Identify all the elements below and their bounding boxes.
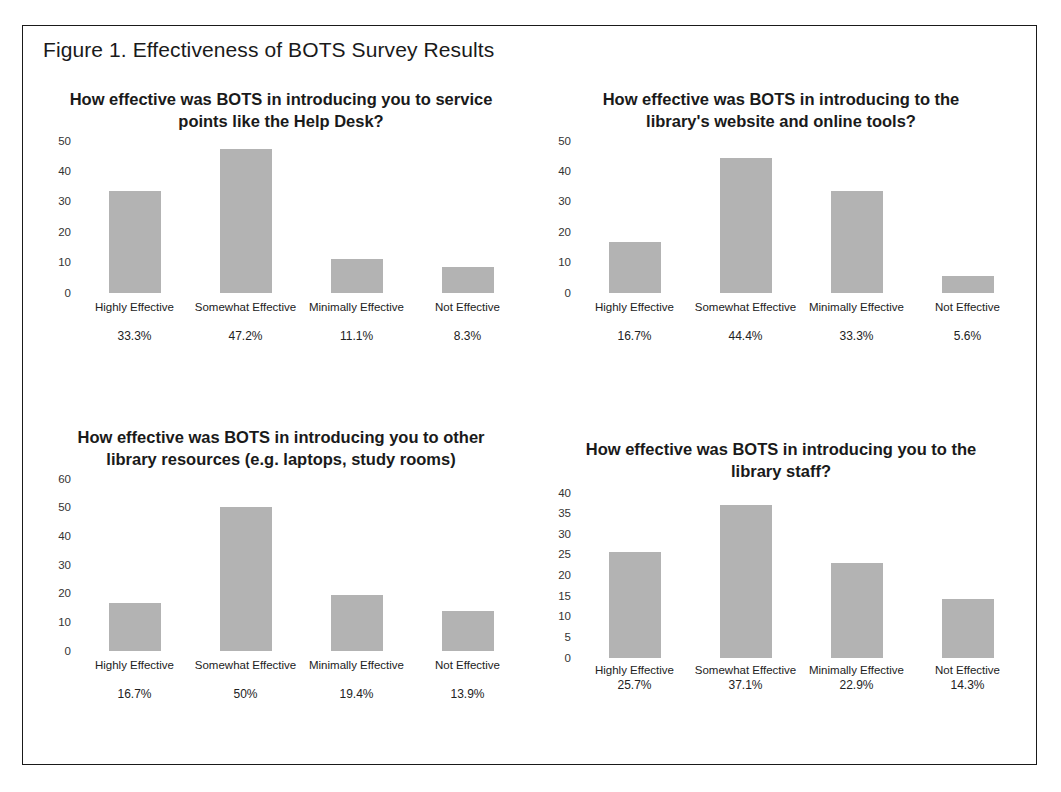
plot-area: 50403020100: [31, 141, 531, 293]
category-label: Somewhat Effective: [190, 301, 301, 313]
bar[interactable]: [609, 242, 661, 293]
bars-area: [579, 141, 1023, 293]
y-axis-tick-label: 40: [58, 530, 71, 542]
bar-slot: [579, 493, 690, 658]
chart-panel-other-resources: How effective was BOTS in introducing yo…: [31, 426, 531, 766]
plot-area: 6050403020100: [31, 479, 531, 651]
bar-slot: [912, 141, 1023, 293]
y-axis-tick-label: 0: [565, 652, 571, 664]
bar-slot: [190, 141, 301, 293]
y-axis-tick-label: 5: [565, 631, 571, 643]
bar[interactable]: [331, 595, 383, 651]
bar[interactable]: [942, 599, 994, 658]
bars-area: [579, 493, 1023, 658]
category-label: Highly Effective: [579, 664, 690, 676]
bar[interactable]: [609, 552, 661, 658]
bar-slot: [301, 479, 412, 651]
category-label: Highly Effective: [79, 301, 190, 313]
y-axis-tick-label: 20: [558, 569, 571, 581]
bar[interactable]: [720, 158, 772, 293]
y-axis-tick-label: 50: [58, 135, 71, 147]
y-axis-tick-label: 10: [558, 256, 571, 268]
y-axis-tick-label: 15: [558, 590, 571, 602]
chart-title: How effective was BOTS in introducing yo…: [31, 426, 531, 471]
y-axis: 50403020100: [531, 141, 575, 293]
category-label: Minimally Effective: [301, 659, 412, 671]
chart-title: How effective was BOTS in introducing yo…: [531, 438, 1031, 483]
percent-label: 14.3%: [912, 678, 1023, 692]
bar[interactable]: [831, 563, 883, 657]
y-axis-tick-label: 20: [58, 587, 71, 599]
y-axis-tick-label: 30: [58, 195, 71, 207]
category-label-row: Highly EffectiveSomewhat EffectiveMinima…: [79, 301, 523, 313]
chart-panel-library-staff: How effective was BOTS in introducing yo…: [531, 438, 1031, 768]
chart-panel-service-points: How effective was BOTS in introducing yo…: [31, 88, 531, 433]
y-axis-tick-label: 10: [558, 610, 571, 622]
chart-grid: How effective was BOTS in introducing yo…: [23, 78, 1036, 764]
percent-label: 5.6%: [912, 329, 1023, 343]
y-axis-tick-label: 25: [558, 548, 571, 560]
percent-label-row: 16.7%50%19.4%13.9%: [79, 687, 523, 701]
percent-label: 22.9%: [801, 678, 912, 692]
bar[interactable]: [109, 603, 161, 651]
y-axis-tick-label: 35: [558, 507, 571, 519]
y-axis: 6050403020100: [31, 479, 75, 651]
y-axis-tick-label: 30: [558, 528, 571, 540]
bar[interactable]: [442, 267, 494, 292]
percent-label: 33.3%: [79, 329, 190, 343]
bar-slot: [412, 141, 523, 293]
category-label: Not Effective: [912, 301, 1023, 313]
bar[interactable]: [109, 191, 161, 292]
plot-area: 4035302520151050: [531, 493, 1031, 658]
percent-label: 44.4%: [690, 329, 801, 343]
bar-slot: [190, 479, 301, 651]
category-label-row: Highly EffectiveSomewhat EffectiveMinima…: [579, 664, 1023, 676]
percent-label-row: 16.7%44.4%33.3%5.6%: [579, 329, 1023, 343]
bars-area: [79, 141, 523, 293]
category-label: Not Effective: [412, 659, 523, 671]
bar-slot: [301, 141, 412, 293]
bar[interactable]: [220, 507, 272, 650]
bar[interactable]: [831, 191, 883, 292]
category-label: Highly Effective: [579, 301, 690, 313]
bar-slot: [412, 479, 523, 651]
chart-panel-website-tools: How effective was BOTS in introducing to…: [531, 88, 1031, 433]
bar[interactable]: [442, 611, 494, 651]
y-axis-tick-label: 0: [65, 287, 71, 299]
bar-slot: [912, 493, 1023, 658]
category-label: Highly Effective: [79, 659, 190, 671]
y-axis: 4035302520151050: [531, 493, 575, 658]
percent-label: 47.2%: [190, 329, 301, 343]
y-axis-tick-label: 40: [558, 487, 571, 499]
category-label: Not Effective: [412, 301, 523, 313]
category-label: Somewhat Effective: [190, 659, 301, 671]
category-label: Somewhat Effective: [690, 664, 801, 676]
bar[interactable]: [942, 276, 994, 293]
bar-slot: [79, 141, 190, 293]
y-axis-tick-label: 40: [58, 165, 71, 177]
category-label: Minimally Effective: [801, 301, 912, 313]
bar-slot: [79, 479, 190, 651]
category-label: Minimally Effective: [801, 664, 912, 676]
y-axis-tick-label: 40: [558, 165, 571, 177]
percent-label: 19.4%: [301, 687, 412, 701]
y-axis-tick-label: 30: [558, 195, 571, 207]
bars-area: [79, 479, 523, 651]
y-axis-tick-label: 30: [58, 559, 71, 571]
bar[interactable]: [331, 259, 383, 293]
y-axis-tick-label: 10: [58, 256, 71, 268]
plot-area: 50403020100: [531, 141, 1031, 293]
y-axis-tick-label: 60: [58, 473, 71, 485]
bar[interactable]: [720, 505, 772, 658]
percent-label: 33.3%: [801, 329, 912, 343]
category-label: Minimally Effective: [301, 301, 412, 313]
y-axis-tick-label: 0: [65, 645, 71, 657]
y-axis-tick-label: 20: [58, 226, 71, 238]
percent-label: 11.1%: [301, 329, 412, 343]
percent-label: 50%: [190, 687, 301, 701]
y-axis-tick-label: 0: [565, 287, 571, 299]
percent-label-row: 25.7%37.1%22.9%14.3%: [579, 678, 1023, 692]
y-axis: 50403020100: [31, 141, 75, 293]
percent-label: 16.7%: [79, 687, 190, 701]
bar[interactable]: [220, 149, 272, 292]
